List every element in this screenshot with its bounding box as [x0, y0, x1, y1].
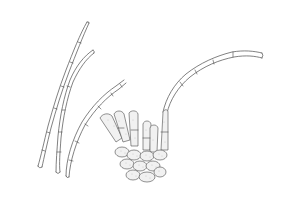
- filament-right-arc: [163, 51, 263, 113]
- filament-left-b: [56, 50, 94, 174]
- filament-drawing: [0, 0, 283, 209]
- illustration-canvas: [0, 0, 283, 209]
- basal-cell-cluster: [100, 110, 168, 182]
- filament-left-a: [38, 22, 89, 168]
